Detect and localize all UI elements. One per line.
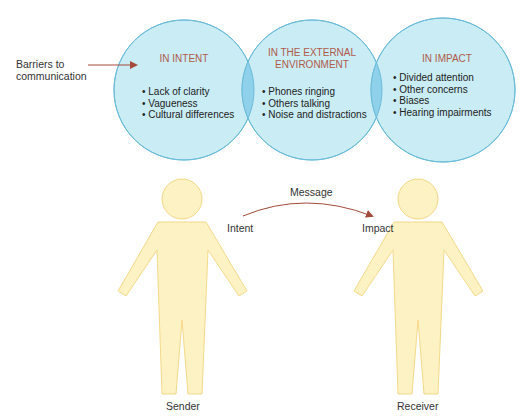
sender-label: Sender <box>166 400 200 412</box>
circle-impact-list: Divided attention Other concerns Biases … <box>393 72 492 118</box>
list-item: Cultural differences <box>142 109 234 121</box>
heading-line: IN THE EXTERNAL <box>262 47 362 59</box>
circle-intent-heading: IN INTENT <box>149 53 219 65</box>
heading-line: IN IMPACT <box>412 53 482 65</box>
impact-label: Impact <box>362 222 394 234</box>
list-item: Lack of clarity <box>142 86 234 98</box>
circle-intent-list: Lack of clarity Vagueness Cultural diffe… <box>142 86 234 121</box>
list-item: Divided attention <box>393 72 492 84</box>
circle-environment-list: Phones ringing Others talking Noise and … <box>262 86 367 121</box>
list-item: Biases <box>393 95 492 107</box>
list-item: Noise and distractions <box>262 109 367 121</box>
receiver-figure <box>354 179 483 394</box>
circle-environment-heading: IN THE EXTERNAL ENVIRONMENT <box>262 47 362 71</box>
list-item: Phones ringing <box>262 86 367 98</box>
message-label: Message <box>290 186 333 198</box>
circle-impact-heading: IN IMPACT <box>412 53 482 65</box>
heading-line: IN INTENT <box>149 53 219 65</box>
barriers-label: Barriers to communication <box>16 58 87 82</box>
barriers-label-line-2: communication <box>16 70 87 82</box>
list-item: Other concerns <box>393 84 492 96</box>
barriers-label-line-1: Barriers to <box>16 58 87 70</box>
list-item: Vagueness <box>142 98 234 110</box>
receiver-label: Receiver <box>397 400 438 412</box>
intent-label: Intent <box>227 222 253 234</box>
list-item: Others talking <box>262 98 367 110</box>
message-arrow <box>243 203 372 216</box>
list-item: Hearing impairments <box>393 107 492 119</box>
sender-figure <box>118 179 247 394</box>
heading-line: ENVIRONMENT <box>262 59 362 71</box>
